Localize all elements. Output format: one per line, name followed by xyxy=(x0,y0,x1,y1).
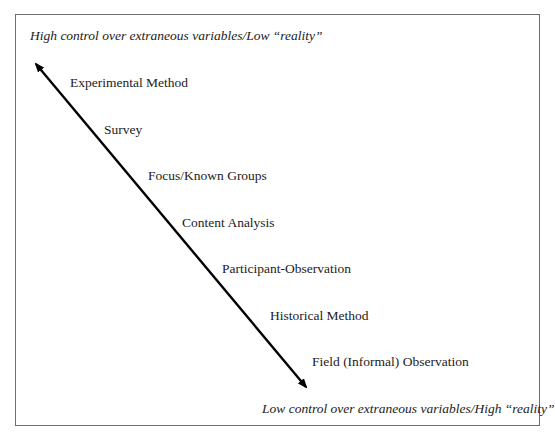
method-label-experimental: Experimental Method xyxy=(70,75,188,91)
method-label-survey: Survey xyxy=(104,122,142,138)
method-label-field-observation: Field (Informal) Observation xyxy=(312,354,469,370)
control-reality-arrow xyxy=(0,0,555,442)
method-label-content-analysis: Content Analysis xyxy=(182,215,275,231)
method-label-participant-observation: Participant-Observation xyxy=(222,261,351,277)
top-endpoint-label: High control over extraneous variables/L… xyxy=(30,28,323,44)
bottom-endpoint-label: Low control over extraneous variables/Hi… xyxy=(262,401,555,417)
method-label-focus-known-groups: Focus/Known Groups xyxy=(148,168,267,184)
method-label-historical: Historical Method xyxy=(270,308,369,324)
